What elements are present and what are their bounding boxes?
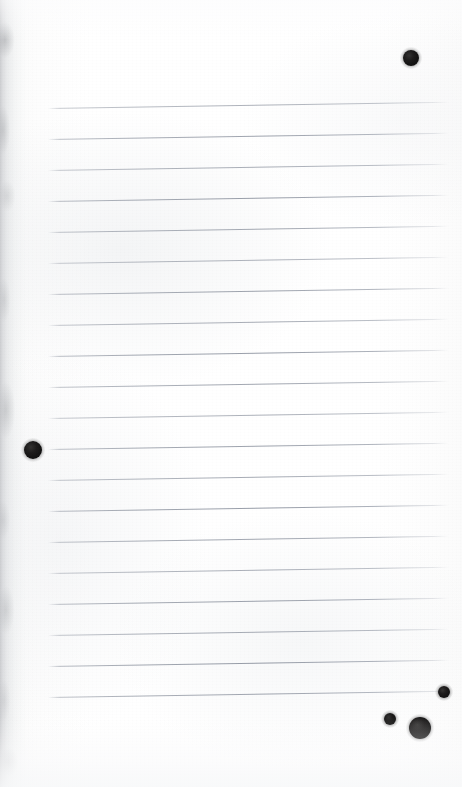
rule-line-5 bbox=[48, 226, 449, 233]
rule-line-7 bbox=[48, 288, 449, 295]
rule-line-12 bbox=[48, 443, 449, 450]
rule-line-20 bbox=[48, 691, 449, 698]
rule-line-13 bbox=[48, 474, 449, 481]
rule-line-4 bbox=[48, 195, 449, 202]
rule-line-19 bbox=[48, 660, 449, 667]
blot-bottom-large bbox=[409, 717, 431, 739]
rule-line-6 bbox=[48, 257, 449, 264]
rule-line-17 bbox=[48, 598, 449, 605]
rule-line-18 bbox=[48, 629, 449, 636]
blot-bottom-left bbox=[384, 713, 396, 725]
rule-line-9 bbox=[48, 350, 449, 357]
rule-line-3 bbox=[48, 164, 449, 171]
blot-bottom-upper bbox=[438, 686, 450, 698]
blot-left-middle bbox=[24, 441, 42, 459]
blot-top-right bbox=[403, 50, 419, 66]
rule-line-11 bbox=[48, 412, 449, 419]
rule-line-14 bbox=[48, 505, 449, 512]
rule-line-16 bbox=[48, 567, 449, 574]
scanned-page bbox=[0, 0, 462, 787]
ruled-lines-group bbox=[0, 0, 462, 787]
rule-line-10 bbox=[48, 381, 449, 388]
rule-line-1 bbox=[48, 102, 449, 109]
rule-line-8 bbox=[48, 319, 449, 326]
rule-line-15 bbox=[48, 536, 449, 543]
rule-line-2 bbox=[48, 133, 449, 140]
